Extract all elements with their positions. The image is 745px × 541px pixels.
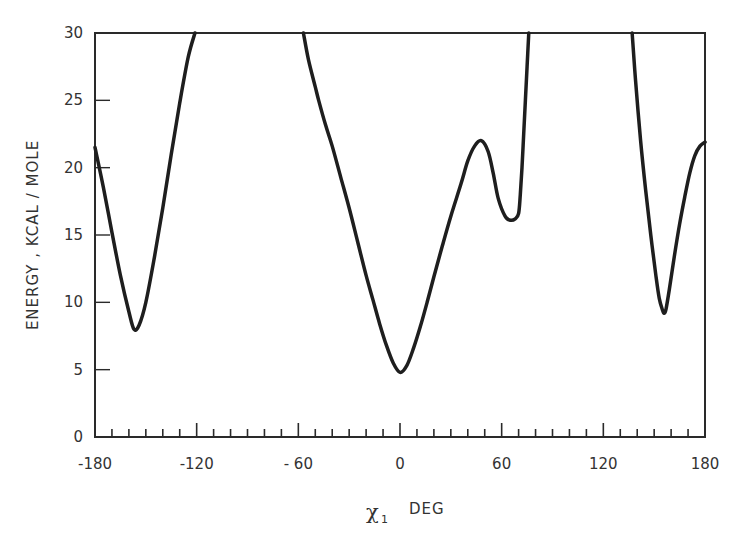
energy-curve-segment [95,33,195,330]
plot-frame [95,33,705,437]
y-tick-label: 20 [64,159,83,177]
energy-curve-segment [303,33,528,372]
y-tick-label: 15 [64,226,83,244]
x-tick-label: 60 [492,455,511,473]
y-axis-title: ENERGY , KCAL / MOLE [24,140,42,330]
x-axis-title-chi: χ [366,500,379,524]
x-axis-title-subscript: 1 [381,513,388,526]
y-tick-label: 0 [73,428,83,446]
y-axis-ticks: 051015202530 [64,24,110,446]
x-tick-label: -120 [180,455,214,473]
energy-curve [95,33,705,372]
plot-border [95,33,705,437]
y-tick-label: 25 [64,91,83,109]
x-tick-label: - 60 [284,455,313,473]
x-tick-label: 180 [691,455,720,473]
x-axis-title: χ 1 DEG [366,500,445,526]
x-axis-title-unit: DEG [409,500,445,518]
x-tick-label: -180 [78,455,112,473]
x-tick-label: 0 [395,455,405,473]
y-tick-label: 5 [73,361,83,379]
y-tick-label: 10 [64,293,83,311]
energy-chart: -180-120- 60060120180 051015202530 ENERG… [0,0,745,541]
x-tick-label: 120 [589,455,618,473]
y-tick-label: 30 [64,24,83,42]
x-axis-ticks: -180-120- 60060120180 [78,423,719,473]
energy-curve-segment [632,33,705,313]
